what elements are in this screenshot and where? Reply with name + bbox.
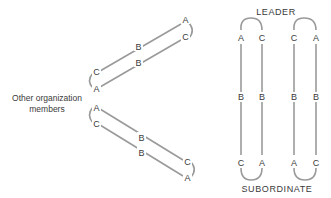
vertical-loop-2-top-right-label: A	[313, 33, 319, 43]
vertical-loop-1-top-arc	[241, 18, 262, 30]
lower-loop-near-top-label: A	[93, 103, 99, 113]
leader-label: LEADER	[256, 7, 296, 17]
vertical-loop-1-bottom-arc	[241, 168, 262, 180]
upper-loop-mid-top-label: B	[135, 42, 141, 52]
upper-loop-near-top-label: C	[93, 67, 100, 77]
upper-loop-far-bottom-label: C	[182, 32, 189, 42]
vertical-loop-1-bottom-left-label: C	[238, 158, 245, 168]
upper-diagonal-loop: A C B B C A	[90, 15, 193, 94]
vertical-loop-2-mid-left-label: B	[291, 92, 297, 102]
vertical-loop-2-top-arc	[294, 18, 316, 30]
subordinate-label: SUBORDINATE	[242, 184, 313, 194]
other-members-label-line1: Other organization	[12, 93, 82, 103]
upper-loop-far-top-label: A	[182, 15, 188, 25]
vertical-loop-2-mid-right-label: B	[313, 92, 319, 102]
vertical-loop-1-top-right-label: C	[259, 33, 266, 43]
vertical-loop-2-bottom-arc	[294, 168, 316, 180]
vertical-loop-1: A C B B C A	[236, 18, 267, 180]
lower-loop-far-bottom-label: A	[184, 173, 190, 183]
upper-loop-near-bottom-label: A	[93, 84, 99, 94]
lower-loop-mid-top-label: B	[138, 133, 144, 143]
lower-loop-near-bottom-label: C	[93, 119, 100, 129]
vertical-loop-1-top-left-label: A	[238, 33, 244, 43]
vertical-loop-2-top-left-label: C	[291, 33, 298, 43]
other-members-label-line2: members	[29, 104, 64, 114]
vertical-loop-1-mid-left-label: B	[238, 92, 244, 102]
vertical-loop-2-bottom-left-label: A	[291, 158, 297, 168]
vertical-loop-1-mid-right-label: B	[259, 92, 265, 102]
lower-diagonal-loop: A C B B C A	[90, 102, 195, 183]
vertical-loop-2: C A B B A C	[289, 18, 321, 180]
lower-loop-far-top-label: C	[184, 157, 191, 167]
vertical-loop-2-bottom-right-label: C	[313, 158, 320, 168]
upper-loop-mid-bottom-label: B	[135, 58, 141, 68]
lower-loop-mid-bottom-label: B	[138, 148, 144, 158]
vertical-loop-1-bottom-right-label: A	[259, 158, 265, 168]
communication-loops-diagram: A C B B C A A C B B C A Other organizati…	[0, 0, 331, 198]
